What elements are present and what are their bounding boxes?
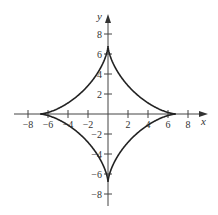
x-tick-label: 8 bbox=[186, 119, 191, 130]
y-tick-label: 2 bbox=[97, 89, 102, 100]
y-axis-arrow-icon bbox=[105, 14, 111, 23]
y-tick-label: −8 bbox=[91, 189, 102, 200]
y-tick-label: −2 bbox=[91, 129, 102, 140]
x-tick-label: −6 bbox=[43, 119, 54, 130]
y-axis-label: y bbox=[96, 10, 102, 22]
x-tick-label: −8 bbox=[23, 119, 34, 130]
x-tick-label: 6 bbox=[166, 119, 171, 130]
astroid-plot: −8−6−4−22468 8642−2−4−6−8 x y bbox=[0, 0, 218, 215]
x-axis-label: x bbox=[200, 115, 206, 127]
y-tick-label: 8 bbox=[97, 29, 102, 40]
x-tick-label: 2 bbox=[126, 119, 131, 130]
y-tick-label: −6 bbox=[91, 169, 102, 180]
y-tick-label: 6 bbox=[97, 49, 102, 60]
